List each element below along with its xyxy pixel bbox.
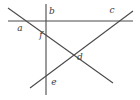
label-c: c xyxy=(109,6,114,15)
descending-diagonal-line xyxy=(8,8,113,83)
label-d: d xyxy=(77,53,83,62)
geometry-diagram: a b c f d e xyxy=(0,0,140,100)
label-a: a xyxy=(17,24,22,33)
label-f: f xyxy=(39,31,42,40)
label-e: e xyxy=(51,78,56,87)
label-b: b xyxy=(49,7,55,16)
diagram-canvas xyxy=(0,0,140,100)
